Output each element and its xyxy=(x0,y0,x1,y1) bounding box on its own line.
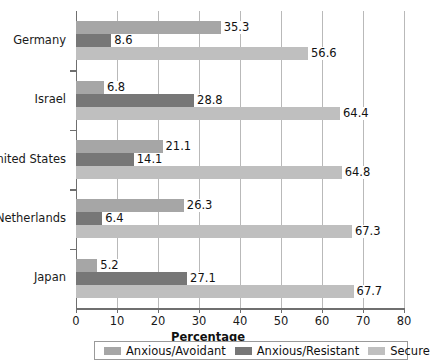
category-separator-tick xyxy=(70,130,77,132)
x-axis-tick xyxy=(158,308,159,313)
chart-legend: Anxious/AvoidantAnxious/ResistantSecure xyxy=(94,341,408,360)
x-axis-tick-label: 50 xyxy=(261,314,301,328)
bar xyxy=(76,34,111,47)
bar-value-label: 67.7 xyxy=(354,285,383,298)
bar xyxy=(76,166,342,179)
legend-swatch-icon xyxy=(235,347,252,355)
gridline xyxy=(404,11,405,308)
bar-value-label: 64.4 xyxy=(340,107,369,120)
legend-label: Anxious/Avoidant xyxy=(126,344,226,358)
bar xyxy=(76,81,104,94)
bar-value-label: 56.6 xyxy=(308,47,337,60)
bar-value-label: 35.3 xyxy=(221,21,250,34)
x-axis-tick xyxy=(240,308,241,313)
x-axis-tick-label: 60 xyxy=(302,314,342,328)
x-axis-tick xyxy=(199,308,200,313)
bar-value-label: 5.2 xyxy=(97,259,118,272)
category-label-germany: Germany xyxy=(13,34,66,47)
bar-value-label: 6.8 xyxy=(104,81,125,94)
legend-item-secure[interactable]: Secure xyxy=(368,344,430,358)
bar xyxy=(76,94,194,107)
x-axis-tick xyxy=(404,308,405,313)
legend-label: Secure xyxy=(390,344,430,358)
x-axis-tick-label: 80 xyxy=(384,314,424,328)
category-label-japan: Japan xyxy=(34,271,66,284)
bar xyxy=(76,21,221,34)
category-label-netherlands: Netherlands xyxy=(0,212,66,225)
bar xyxy=(76,153,134,166)
bar xyxy=(76,107,340,120)
bar-value-label: 8.6 xyxy=(111,34,132,47)
legend-swatch-icon xyxy=(104,347,121,355)
category-label-united-states: United States xyxy=(0,153,66,166)
category-separator-tick xyxy=(70,249,77,251)
x-axis-tick xyxy=(322,308,323,313)
x-axis-tick-label: 30 xyxy=(179,314,219,328)
bar-value-label: 28.8 xyxy=(194,94,223,107)
category-separator-tick xyxy=(70,70,77,72)
category-label-israel: Israel xyxy=(35,93,66,106)
legend-item-avoidant[interactable]: Anxious/Avoidant xyxy=(104,344,226,358)
x-axis-tick xyxy=(363,308,364,313)
x-axis-tick xyxy=(281,308,282,313)
bar xyxy=(76,225,352,238)
x-axis-tick xyxy=(76,308,77,313)
x-axis-tick xyxy=(117,308,118,313)
bar xyxy=(76,212,102,225)
bar xyxy=(76,259,97,272)
x-axis-tick-label: 70 xyxy=(343,314,383,328)
legend-item-resistant[interactable]: Anxious/Resistant xyxy=(235,344,359,358)
bar xyxy=(76,47,308,60)
x-axis-tick-label: 20 xyxy=(138,314,178,328)
x-axis-tick-label: 0 xyxy=(56,314,96,328)
x-axis-tick-label: 10 xyxy=(97,314,137,328)
bar-value-label: 14.1 xyxy=(134,153,163,166)
gridline xyxy=(363,11,364,308)
bar-value-label: 67.3 xyxy=(352,225,381,238)
bar-value-label: 27.1 xyxy=(187,272,216,285)
bar-value-label: 26.3 xyxy=(184,199,213,212)
category-separator-tick xyxy=(70,189,77,191)
bar-value-label: 6.4 xyxy=(102,212,123,225)
bar xyxy=(76,199,184,212)
legend-label: Anxious/Resistant xyxy=(257,344,359,358)
legend-swatch-icon xyxy=(368,347,385,355)
bar xyxy=(76,285,354,298)
bar xyxy=(76,272,187,285)
bar-value-label: 64.8 xyxy=(342,166,371,179)
bar-value-label: 21.1 xyxy=(163,140,192,153)
x-axis-tick-label: 40 xyxy=(220,314,260,328)
